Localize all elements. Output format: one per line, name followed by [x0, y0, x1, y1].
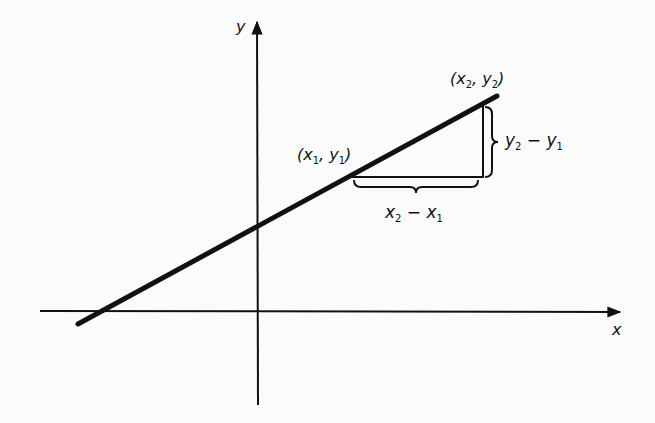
y-axis: [257, 22, 258, 405]
slope-diagram: x y (x1, y1) (x2, y2) y2 − y1 x2 − x1: [0, 0, 655, 423]
point-2-label: (x2, y2): [450, 69, 504, 90]
run-brace: [354, 180, 478, 193]
rise-label: y2 − y1: [504, 130, 563, 152]
x-axis-label: x: [611, 320, 622, 339]
x-axis: [40, 311, 620, 312]
y-axis-label: y: [235, 17, 246, 36]
point-1-label: (x1, y1): [297, 145, 351, 166]
rise-brace: [485, 107, 498, 177]
run-label: x2 − x1: [384, 202, 443, 224]
